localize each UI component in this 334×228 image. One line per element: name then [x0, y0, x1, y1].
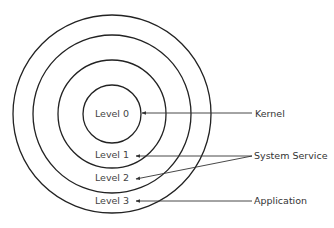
level-1-label: Level 1: [95, 149, 129, 160]
system-service-arrow-level-2: [136, 156, 252, 179]
kernel-label: Kernel: [255, 108, 285, 119]
application-label: Application: [254, 195, 307, 206]
system-service-label: System Service: [254, 150, 328, 161]
protection-rings-diagram: Level 0 Level 1 Level 2 Level 3 Kernel S…: [0, 0, 334, 228]
level-3-label: Level 3: [95, 195, 129, 206]
level-0-label: Level 0: [95, 108, 129, 119]
level-2-label: Level 2: [95, 172, 129, 183]
